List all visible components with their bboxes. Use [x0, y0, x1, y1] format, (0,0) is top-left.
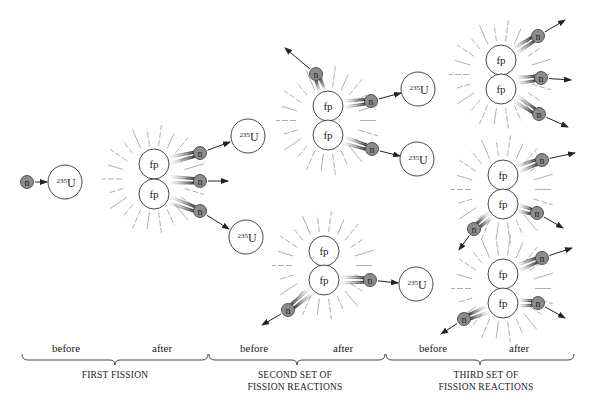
neutron-label: n [198, 176, 203, 187]
uranium-nucleus: 235U [401, 72, 435, 106]
neutron-trail [169, 176, 194, 185]
emitted-neutron: n [364, 274, 377, 287]
arrow-icon [459, 236, 469, 250]
stage1-before-label: before [52, 342, 80, 354]
uranium-nucleus: 235U [231, 119, 265, 153]
arrow-icon [207, 215, 229, 229]
arrow-icon [208, 142, 230, 150]
arrow-icon [545, 20, 565, 32]
emitted-neutron: n [282, 304, 295, 317]
neutron-trail [518, 299, 532, 307]
stage2-brace [209, 354, 385, 365]
neutron-label: n [539, 73, 544, 84]
neutron-trail [167, 195, 196, 212]
emitted-neutron: n [535, 72, 548, 85]
fission-product-label: fp [498, 169, 508, 181]
fission-product-label: fp [323, 100, 333, 112]
fission-product-label: fp [319, 245, 329, 257]
neutron-label: n [540, 253, 545, 264]
fission-product-label: fp [498, 268, 508, 280]
arrow-icon [545, 307, 565, 318]
arrow-icon [285, 48, 310, 69]
arrow-icon [546, 117, 568, 127]
neutron-label: n [537, 109, 542, 120]
neutron-trail [511, 36, 535, 55]
neutron-label: n [536, 31, 541, 42]
incoming-neutron: n [21, 176, 34, 189]
neutron-trail [516, 75, 536, 85]
fission-product-label: fp [496, 54, 506, 66]
fission-product-label: fp [149, 158, 159, 170]
arrow-icon [550, 153, 575, 158]
emitted-neutron: n [532, 30, 545, 43]
uranium-target: 235U [48, 165, 82, 199]
neutron-trail [511, 94, 536, 114]
neutron-trail [468, 305, 491, 320]
neutron-label: n [535, 208, 540, 219]
fission-product-label: fp [149, 188, 159, 200]
neutron-trail [290, 287, 315, 310]
stage2-caption: SECOND SET OF FISSION REACTIONS [240, 369, 350, 393]
stage3-brace [386, 354, 574, 365]
stage2-caption-line1: SECOND SET OF [240, 369, 350, 381]
arrow-icon [549, 79, 571, 80]
fission-product-label: fp [323, 129, 333, 141]
stage3-before-label: before [419, 342, 447, 354]
stage3-after-label: after [509, 342, 529, 354]
emitted-neutron: n [531, 207, 544, 220]
emitted-neutron: n [468, 223, 481, 236]
neutron-trail [168, 151, 195, 165]
neutron-label: n [25, 177, 30, 188]
neutron-label: n [540, 155, 545, 166]
emitted-neutron: n [366, 143, 379, 156]
fission-chain-diagram: n235Ufpfpnnn235U235Ufpfpnnn235U235Ufpfpn… [0, 0, 592, 405]
emitted-neutron: n [533, 108, 546, 121]
stage3-caption-line2: FISSION REACTIONS [426, 381, 546, 393]
fission-product-label: fp [319, 274, 329, 286]
stage1-caption-line1: FIRST FISSION [60, 369, 170, 381]
arrow-icon [550, 248, 572, 255]
neutron-label: n [369, 96, 374, 107]
fission-products: fpfp [486, 45, 516, 104]
arrow-icon [378, 281, 398, 283]
stage3-caption-line1: THIRD SET OF [426, 369, 546, 381]
neutron-label: n [286, 305, 291, 316]
neutron-trail [516, 204, 532, 215]
neutron-label: n [472, 224, 477, 235]
fission-products: fpfp [309, 236, 339, 295]
uranium-nucleus: 235U [400, 142, 434, 176]
neutron-label: n [462, 314, 467, 325]
neutron-trail [341, 136, 367, 151]
emitted-neutron: n [458, 313, 471, 326]
emitted-neutron: n [194, 147, 207, 160]
stage1-caption: FIRST FISSION [60, 369, 170, 381]
neutron-label: n [536, 298, 541, 309]
fission-product-label: fp [498, 297, 508, 309]
emitted-neutron: n [536, 252, 549, 265]
fission-products: fpfp [313, 91, 343, 150]
fission-product-label: fp [496, 83, 506, 95]
fission-products: fpfp [139, 149, 169, 209]
emitted-neutron: n [194, 175, 207, 188]
arrow-icon [544, 217, 563, 228]
stage2-after-label: after [333, 342, 353, 354]
fission-products: fpfp [488, 259, 518, 318]
stage1-after-label: after [152, 342, 172, 354]
arrow-icon [441, 323, 457, 334]
neutron-label: n [370, 144, 375, 155]
emitted-neutron: n [194, 205, 207, 218]
neutron-trail [342, 98, 365, 109]
fission-products: fpfp [488, 160, 518, 219]
arrow-icon [262, 314, 281, 325]
uranium-nucleus: 235U [229, 220, 263, 254]
arrow-icon [379, 93, 401, 99]
neutron-label: n [198, 148, 203, 159]
neutron-trail [515, 257, 538, 272]
stage2-before-label: before [240, 342, 268, 354]
stage1-brace [22, 354, 208, 365]
arrow-icon [380, 151, 400, 156]
fission-product-label: fp [498, 198, 508, 210]
neutron-label: n [368, 275, 373, 286]
emitted-neutron: n [310, 68, 323, 81]
neutron-trail [339, 276, 364, 284]
